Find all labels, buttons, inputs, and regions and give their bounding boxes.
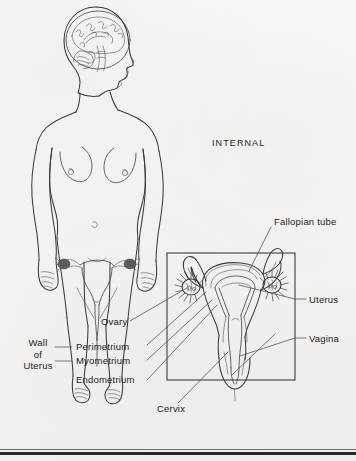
label-endometrium: Endometrium [76,374,135,385]
label-fallopian-tube: Fallopian tube [274,216,336,227]
leader-ovary [130,288,187,321]
diagram-page: .ln { fill:none; stroke:#4a4a4a; stroke-… [0,0,356,461]
leader-fallopian-tube [249,227,271,271]
label-myometrium: Myometrium [76,355,130,366]
leader-perimetrium [147,292,206,345]
enlarged-uterus-cross-section [175,249,288,401]
label-uterus: Uterus [309,294,338,305]
label-wall-of-uterus: Wall of Uterus [20,337,56,372]
leader-endometrium [147,305,217,380]
label-ovary: Ovary [101,316,127,327]
section-heading-internal: INTERNAL [212,138,265,149]
label-perimetrium: Perimetrium [76,341,129,352]
label-vagina: Vagina [309,333,339,344]
anatomical-line-art: .ln { fill:none; stroke:#4a4a4a; stroke-… [0,0,356,461]
leader-cervix [178,352,228,403]
label-wall-line-2: of [34,349,42,360]
footer-rule-thin [0,449,356,450]
label-wall-line-1: Wall [29,337,48,348]
brain [66,11,130,83]
label-cervix: Cervix [157,403,185,414]
leader-myometrium [147,300,212,360]
footer-rule [0,452,356,455]
leader-vagina-b [232,334,275,375]
label-wall-line-3: Uterus [23,360,52,371]
